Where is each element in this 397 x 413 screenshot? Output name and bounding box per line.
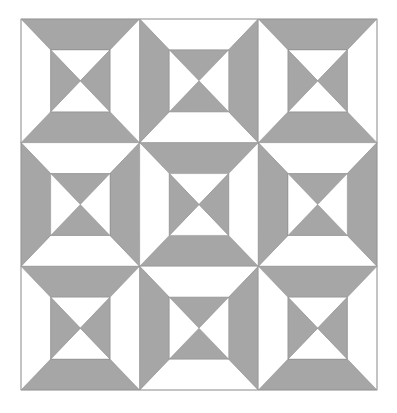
quilt-block-a	[21, 19, 140, 143]
quilt-block-b	[258, 143, 377, 267]
quilt-block-a	[140, 143, 259, 267]
quilt-blocks	[21, 19, 377, 390]
quilt-block-a	[258, 19, 377, 143]
quilt-block-b	[21, 143, 140, 267]
quilt-block-b	[140, 19, 259, 143]
quilt-block-b	[140, 266, 259, 390]
quilt-block-a	[258, 266, 377, 390]
quilt-block-a	[21, 266, 140, 390]
quilt-pattern	[0, 0, 397, 413]
